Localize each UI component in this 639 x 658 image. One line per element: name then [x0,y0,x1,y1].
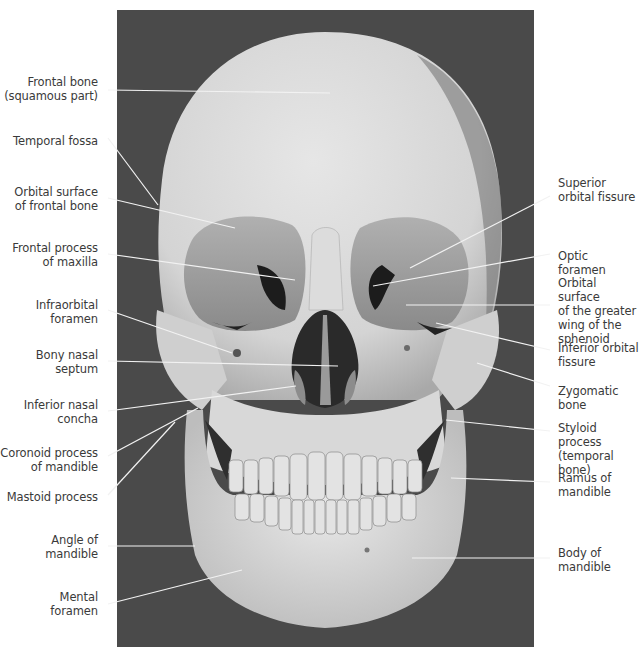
label-body-of-mandible: Body of mandible [558,546,639,574]
label-inferior-nasal-concha: Inferior nasal concha [0,398,98,426]
label-styloid-process: Styloid process (temporal bone) [558,421,639,477]
label-temporal-fossa: Temporal fossa [0,134,98,148]
label-bony-nasal-septum: Bony nasal septum [0,348,98,376]
label-coronoid-process: Coronoid process of mandible [0,446,98,474]
label-superior-orbital-fissure: Superior orbital fissure [558,176,639,204]
infraorbital-foramen-mark [233,349,241,357]
label-inferior-orbital-fissure: Inferior orbital fissure [558,341,639,369]
label-infraorbital-foramen: Infraorbital foramen [0,298,98,326]
label-frontal-process-maxilla: Frontal process of maxilla [0,241,98,269]
left-orbit [350,217,468,330]
right-orbit [184,217,306,331]
label-orbital-surface-frontal: Orbital surface of frontal bone [0,185,98,213]
label-ramus-of-mandible: Ramus of mandible [558,471,639,499]
label-frontal-bone: Frontal bone (squamous part) [0,75,98,103]
label-mastoid-process: Mastoid process [0,490,98,504]
label-zygomatic-bone: Zygomatic bone [558,384,639,412]
skull-anterior-figure: Frontal bone (squamous part) Temporal fo… [0,0,639,658]
label-optic-foramen: Optic foramen [558,249,639,277]
label-mental-foramen: Mental foramen [0,590,98,618]
skull-photograph [117,10,534,647]
label-angle-of-mandible: Angle of mandible [0,533,98,561]
label-orbital-surface-sphenoid: Orbital surface of the greater wing of t… [558,276,639,346]
